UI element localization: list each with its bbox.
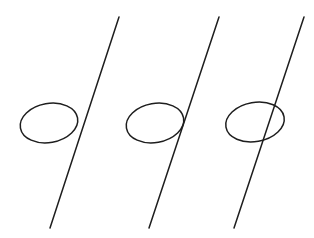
panel-two-intersections [223, 17, 304, 228]
ellipse-two-intersections [223, 98, 288, 147]
diagram-canvas [0, 0, 314, 238]
panel-tangent [123, 17, 219, 228]
line-tangent [149, 17, 219, 228]
line-two-intersections [234, 17, 304, 228]
ellipse-no-intersection [17, 99, 81, 147]
line-ellipse-diagram [0, 0, 314, 238]
line-no-intersection [50, 17, 119, 228]
ellipse-tangent [123, 99, 187, 147]
panel-no-intersection [17, 17, 119, 228]
